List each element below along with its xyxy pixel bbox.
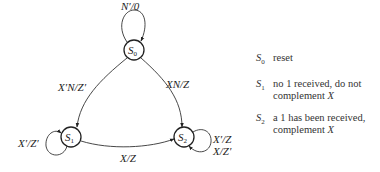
- edge-label-s0-self: N′/0: [120, 0, 140, 12]
- state-node-s0: S0: [124, 40, 144, 60]
- legend-description: reset: [273, 52, 380, 68]
- edge-label-s0-s1: X′N/Z′: [57, 81, 87, 93]
- legend-symbol: S0: [256, 52, 273, 68]
- edge-label-s2-self-2: X/Z′: [212, 145, 232, 157]
- state-node-s1: S1: [61, 127, 81, 147]
- edge-label-s2-self-1: X′/Z: [212, 133, 232, 145]
- edge-s0-to-s2: [141, 58, 182, 127]
- legend-item-s1: S1 no 1 received, do not complement X: [256, 78, 380, 102]
- legend-symbol: S2: [256, 112, 273, 136]
- edge-s0-self-loop: [122, 10, 145, 42]
- state-legend: S0 reset S1 no 1 received, do not comple…: [256, 52, 380, 146]
- state-node-s2: S2: [174, 127, 194, 147]
- edge-s1-to-s2: [81, 139, 174, 147]
- edge-label-s1-s2: X/Z: [119, 152, 137, 164]
- edge-label-s1-self: X′/Z′: [17, 137, 39, 149]
- legend-item-s0: S0 reset: [256, 52, 380, 68]
- state-diagram: N′/0 X′N/Z′ XN/Z X′/Z′ X/Z X′/Z X/Z′ S0 …: [0, 0, 250, 172]
- legend-description: no 1 received, do not complement X: [273, 78, 380, 102]
- legend-symbol: S1: [256, 78, 273, 102]
- legend-description: a 1 has been received, complement X: [273, 112, 380, 136]
- edge-label-s0-s2: XN/Z: [165, 78, 190, 90]
- legend-item-s2: S2 a 1 has been received, complement X: [256, 112, 380, 136]
